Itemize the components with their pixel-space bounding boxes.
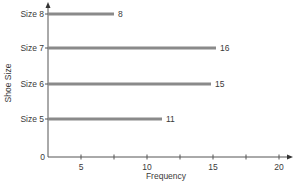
bar-row: Size 716: [20, 43, 229, 53]
bar-row: Size 615: [20, 79, 224, 89]
y-axis-title: Shoe Size: [3, 63, 13, 102]
bar-row: Size 511: [20, 114, 175, 124]
x-axis-title: Frequency: [146, 171, 187, 181]
y-axis-arrow-icon: [46, 2, 51, 8]
x-tick-label: 20: [274, 162, 284, 172]
value-label: 8: [118, 9, 123, 19]
x-axis-arrow-icon: [287, 155, 293, 160]
value-label: 15: [215, 79, 225, 89]
category-label: Size 7: [20, 43, 44, 53]
bar: [48, 118, 162, 121]
bar: [48, 13, 114, 16]
bars: Size 511Size 615Size 716Size 88: [20, 9, 229, 124]
x-tick-label: 15: [208, 162, 218, 172]
x-tick-label: 5: [79, 162, 84, 172]
bar-row: Size 88: [20, 9, 123, 19]
category-label: Size 8: [20, 9, 44, 19]
value-label: 16: [220, 43, 230, 53]
value-label: 11: [166, 114, 175, 124]
category-label: Size 6: [20, 79, 44, 89]
y-origin-label: 0: [40, 152, 45, 162]
horizontal-bar-chart: 5101520 0 Size 511Size 615Size 716Size 8…: [0, 0, 295, 182]
category-label: Size 5: [20, 114, 44, 124]
bar: [48, 47, 216, 50]
bar: [48, 83, 211, 86]
